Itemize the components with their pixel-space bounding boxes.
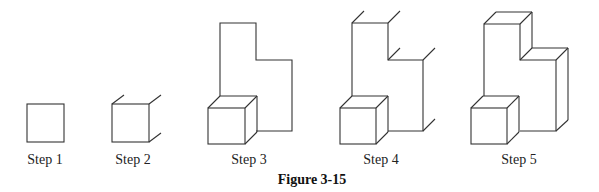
step-4-drawing bbox=[340, 11, 435, 144]
step-1-drawing bbox=[27, 104, 64, 142]
step-4-label: Step 4 bbox=[363, 152, 398, 168]
step-2-label: Step 2 bbox=[115, 152, 150, 168]
figure-caption: Figure 3-15 bbox=[278, 172, 347, 188]
step-3-label: Step 3 bbox=[231, 152, 266, 168]
step-5-drawing bbox=[471, 12, 568, 144]
step-1-label: Step 1 bbox=[27, 152, 62, 168]
step-2-drawing bbox=[112, 95, 161, 142]
step-3-drawing bbox=[208, 23, 292, 144]
step-5-label: Step 5 bbox=[501, 152, 536, 168]
